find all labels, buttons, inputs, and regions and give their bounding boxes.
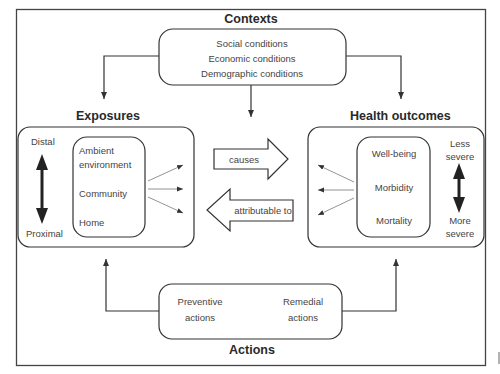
less-label: Less bbox=[450, 139, 470, 149]
contexts-title: Contexts bbox=[224, 13, 277, 26]
exposure-item-environment: environment bbox=[79, 160, 131, 170]
distal-label: Distal bbox=[31, 137, 55, 147]
preventive-actions-label: actions bbox=[185, 313, 215, 323]
health-outcomes-title: Health outcomes bbox=[350, 110, 451, 123]
remedial-actions-label: actions bbox=[288, 313, 318, 323]
outcome-item-morbidity: Morbidity bbox=[375, 183, 414, 193]
less-severe-label: severe bbox=[446, 152, 475, 162]
outcome-item-mortality: Mortality bbox=[376, 216, 412, 226]
attributable-label: attributable to bbox=[234, 206, 292, 216]
exposures-title: Exposures bbox=[76, 110, 140, 123]
exposure-item-community: Community bbox=[79, 189, 127, 199]
exposure-item-ambient: Ambient bbox=[79, 146, 114, 156]
context-item-social: Social conditions bbox=[216, 39, 287, 49]
context-item-demographic: Demographic conditions bbox=[201, 69, 303, 79]
context-item-economic: Economic conditions bbox=[208, 54, 295, 64]
remedial-label: Remedial bbox=[283, 297, 323, 307]
more-label: More bbox=[449, 216, 471, 226]
causes-label: causes bbox=[229, 155, 259, 165]
outcome-item-wellbeing: Well-being bbox=[372, 149, 417, 159]
preventive-label: Preventive bbox=[178, 297, 223, 307]
proximal-label: Proximal bbox=[26, 229, 63, 239]
exposure-item-home: Home bbox=[79, 218, 104, 228]
more-severe-label: severe bbox=[446, 229, 475, 239]
actions-title: Actions bbox=[229, 344, 275, 357]
